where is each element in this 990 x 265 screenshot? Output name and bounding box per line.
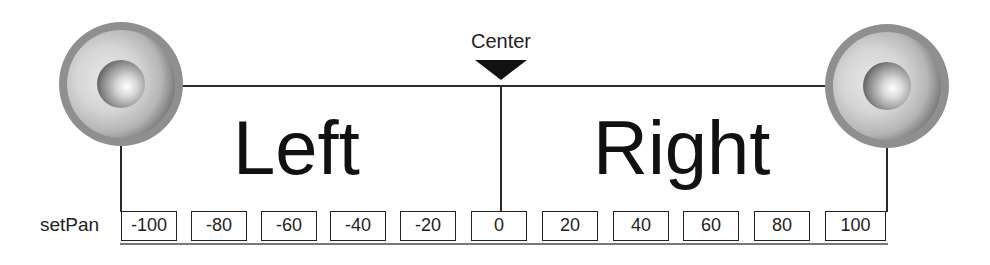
pan-value-box[interactable]: -20: [400, 211, 456, 241]
pan-value-box[interactable]: -40: [330, 211, 386, 241]
setpan-label: setPan: [40, 214, 99, 236]
left-drop-line: [120, 146, 122, 212]
pan-value-box[interactable]: 0: [471, 211, 527, 241]
pan-value-box[interactable]: 60: [683, 211, 739, 241]
speaker-dome: [97, 60, 145, 108]
left-channel-label: Left: [233, 110, 360, 186]
right-channel-label: Right: [593, 110, 770, 186]
pan-value-box[interactable]: -100: [121, 211, 177, 241]
speaker-dome: [863, 62, 911, 110]
pan-value-box[interactable]: 40: [613, 211, 669, 241]
right-speaker-icon: [825, 24, 949, 148]
pan-value-row: -100 -80 -60 -40 -20 0 20 40 60 80 100: [121, 211, 888, 243]
left-speaker-icon: [59, 22, 183, 146]
center-divider-line: [500, 85, 502, 212]
pan-value-box[interactable]: 100: [825, 211, 886, 241]
center-label: Center: [441, 30, 561, 53]
right-drop-line: [886, 148, 888, 212]
pan-value-box[interactable]: -60: [261, 211, 317, 241]
top-connector-line: [182, 85, 825, 87]
baseline-line: [120, 243, 888, 245]
pan-value-box[interactable]: -80: [191, 211, 247, 241]
center-triangle-marker-icon: [475, 60, 527, 80]
pan-value-box[interactable]: 20: [542, 211, 598, 241]
pan-value-box[interactable]: 80: [754, 211, 810, 241]
